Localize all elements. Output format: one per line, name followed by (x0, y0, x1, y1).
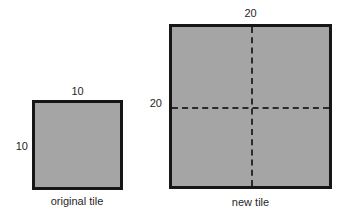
new-tile-horizontal-dashed-divider (172, 107, 329, 109)
figure-canvas: 10 10 original tile 20 20 new tile (0, 0, 347, 220)
original-tile-left-dimension-label: 10 (6, 140, 28, 152)
original-tile-top-dimension-label: 10 (32, 85, 123, 97)
original-tile-caption: original tile (17, 195, 137, 208)
new-tile-square (169, 24, 332, 189)
new-tile-top-dimension-label: 20 (169, 7, 332, 19)
original-tile-square (32, 100, 123, 190)
new-tile-caption: new tile (189, 196, 312, 209)
new-tile-left-dimension-label: 20 (134, 97, 162, 109)
